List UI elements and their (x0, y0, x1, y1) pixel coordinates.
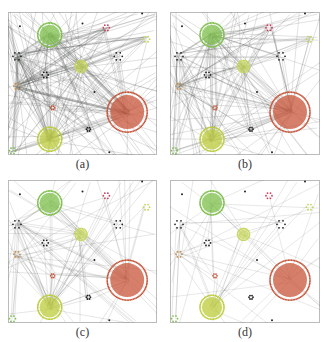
caption-b: (b) (170, 157, 320, 172)
caption-c: (c) (8, 325, 157, 340)
isolated-node (181, 25, 183, 27)
yellow-hub-bottom-node (199, 294, 225, 320)
yellow-hub-mid-node (237, 59, 251, 73)
isolated-node (181, 193, 183, 195)
isolated-node (244, 22, 246, 24)
orange-hub-node (269, 259, 311, 301)
isolated-node (93, 259, 95, 261)
isolated-node (304, 180, 306, 182)
isolated-node (271, 151, 273, 153)
network-graph (170, 180, 320, 323)
isolated-node (141, 12, 143, 14)
green-hub-node (199, 190, 225, 216)
network-graph (8, 12, 157, 155)
yellow-hub-mid-node (237, 227, 251, 241)
isolated-node (271, 319, 273, 321)
isolated-node (256, 259, 258, 261)
panel-c (8, 180, 157, 323)
caption-a: (a) (8, 157, 157, 172)
isolated-node (93, 91, 95, 93)
yellow-hub-mid-node (74, 59, 88, 73)
isolated-node (256, 91, 258, 93)
isolated-node (304, 12, 306, 14)
green-hub-node (199, 22, 225, 48)
isolated-node (82, 22, 84, 24)
network-graph (8, 180, 157, 323)
isolated-node (19, 193, 21, 195)
green-hub-node (37, 22, 63, 48)
network-graph (170, 12, 320, 155)
caption-d: (d) (170, 325, 320, 340)
yellow-hub-mid-node (74, 227, 88, 241)
isolated-node (244, 190, 246, 192)
orange-hub-node (106, 91, 148, 133)
panel-b (170, 12, 320, 155)
isolated-node (108, 319, 110, 321)
isolated-node (141, 180, 143, 182)
isolated-node (82, 190, 84, 192)
orange-hub-node (269, 91, 311, 133)
yellow-hub-bottom-node (199, 126, 225, 152)
isolated-node (108, 151, 110, 153)
panel-a (8, 12, 157, 155)
panel-d (170, 180, 320, 323)
green-hub-node (37, 190, 63, 216)
isolated-node (19, 25, 21, 27)
yellow-hub-bottom-node (37, 294, 63, 320)
orange-hub-node (106, 259, 148, 301)
yellow-hub-bottom-node (37, 126, 63, 152)
